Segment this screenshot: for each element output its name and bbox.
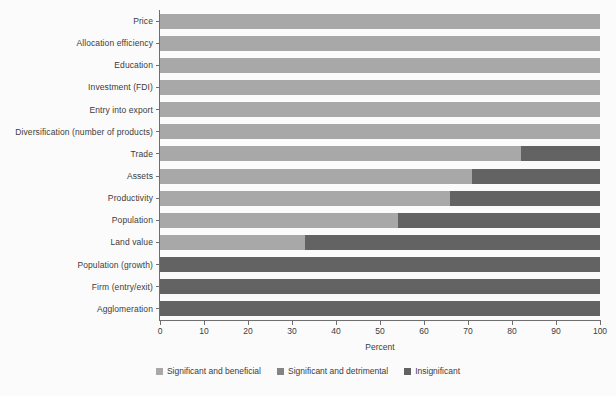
x-axis-tick	[600, 321, 601, 325]
bar-row	[160, 187, 600, 209]
bar-row	[160, 10, 600, 32]
x-axis-tick-label: 0	[158, 326, 163, 336]
y-axis-label: Population (growth)	[0, 254, 153, 276]
x-axis-tick-label: 70	[463, 326, 472, 336]
legend-swatch-icon	[156, 368, 163, 375]
legend-item[interactable]: Significant and beneficial	[156, 366, 261, 376]
stacked-bar	[160, 36, 600, 51]
bar-row	[160, 231, 600, 253]
y-axis-label: Price	[0, 10, 153, 32]
y-axis-label: Population	[0, 209, 153, 231]
bar-segment	[160, 191, 450, 206]
bar-row	[160, 143, 600, 165]
x-axis-tick-label: 50	[375, 326, 384, 336]
bar-segment	[521, 146, 600, 161]
legend-item[interactable]: Significant and detrimental	[277, 366, 388, 376]
x-axis-tick	[336, 321, 337, 325]
y-axis-label: Agglomeration	[0, 298, 153, 320]
stacked-bar	[160, 235, 600, 250]
bar-segment	[160, 235, 305, 250]
bar-row	[160, 76, 600, 98]
stacked-bar	[160, 191, 600, 206]
y-axis-label: Productivity	[0, 187, 153, 209]
x-axis-tick	[424, 321, 425, 325]
stacked-bar	[160, 301, 600, 316]
x-axis-tick-label: 90	[551, 326, 560, 336]
legend-label: Insignificant	[415, 366, 460, 376]
stacked-bar	[160, 80, 600, 95]
y-axis-label: Firm (entry/exit)	[0, 276, 153, 298]
stacked-bar	[160, 102, 600, 117]
x-axis-tick-label: 10	[199, 326, 208, 336]
x-axis-title: Percent	[160, 342, 600, 352]
x-axis-tick	[160, 321, 161, 325]
chart-legend: Significant and beneficialSignificant an…	[0, 366, 616, 376]
bar-row	[160, 209, 600, 231]
bar-row	[160, 298, 600, 320]
bar-segment	[160, 279, 600, 294]
bar-row	[160, 32, 600, 54]
y-axis-label: Education	[0, 54, 153, 76]
x-axis-tick	[468, 321, 469, 325]
x-axis-tick-label: 80	[507, 326, 516, 336]
bar-segment	[160, 146, 521, 161]
x-axis-tick	[512, 321, 513, 325]
stacked-bar	[160, 146, 600, 161]
plot-area	[160, 10, 600, 320]
bar-segment	[160, 213, 398, 228]
y-axis-label: Entry into export	[0, 99, 153, 121]
bar-segment	[160, 169, 472, 184]
bar-segment	[305, 235, 600, 250]
y-axis-label: Trade	[0, 143, 153, 165]
bar-segment	[160, 14, 600, 29]
stacked-bar	[160, 14, 600, 29]
y-axis-category-labels: PriceAllocation efficiencyEducationInves…	[0, 10, 153, 320]
x-axis-tick	[292, 321, 293, 325]
stacked-bar-chart: PriceAllocation efficiencyEducationInves…	[0, 0, 616, 396]
bar-segment	[160, 102, 600, 117]
x-axis-tick	[380, 321, 381, 325]
y-axis-label: Investment (FDI)	[0, 76, 153, 98]
bar-segment	[160, 36, 600, 51]
y-axis-label: Assets	[0, 165, 153, 187]
stacked-bar	[160, 124, 600, 139]
bar-segment	[472, 169, 600, 184]
legend-label: Significant and detrimental	[288, 366, 388, 376]
bar-segment	[160, 301, 600, 316]
bar-row	[160, 276, 600, 298]
bar-segment	[160, 124, 600, 139]
legend-swatch-icon	[404, 368, 411, 375]
x-axis-tick-label: 20	[243, 326, 252, 336]
legend-swatch-icon	[277, 368, 284, 375]
x-axis-tick-label: 30	[287, 326, 296, 336]
y-axis-label: Diversification (number of products)	[0, 121, 153, 143]
bar-segment	[160, 257, 600, 272]
stacked-bar	[160, 58, 600, 73]
bar-segment	[160, 58, 600, 73]
bar-row	[160, 254, 600, 276]
bar-rows	[160, 10, 600, 320]
x-axis-tick	[248, 321, 249, 325]
stacked-bar	[160, 257, 600, 272]
x-axis-tick	[204, 321, 205, 325]
bar-row	[160, 121, 600, 143]
bar-row	[160, 165, 600, 187]
x-axis-tick	[556, 321, 557, 325]
bar-segment	[450, 191, 600, 206]
y-axis-label: Land value	[0, 231, 153, 253]
y-axis-label: Allocation efficiency	[0, 32, 153, 54]
bar-row	[160, 99, 600, 121]
bar-segment	[160, 80, 600, 95]
stacked-bar	[160, 213, 600, 228]
x-axis-tick-label: 60	[419, 326, 428, 336]
bar-segment	[398, 213, 600, 228]
stacked-bar	[160, 279, 600, 294]
x-axis-tick-labels: 0102030405060708090100	[160, 326, 600, 340]
legend-label: Significant and beneficial	[167, 366, 261, 376]
stacked-bar	[160, 169, 600, 184]
x-axis-tick-label: 100	[593, 326, 607, 336]
bar-row	[160, 54, 600, 76]
legend-item[interactable]: Insignificant	[404, 366, 460, 376]
x-axis-tick-label: 40	[331, 326, 340, 336]
